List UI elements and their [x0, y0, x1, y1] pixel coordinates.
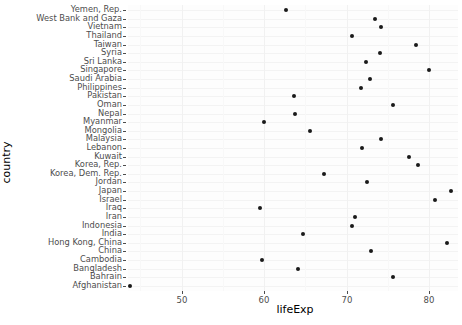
y-tick-mark — [123, 286, 126, 287]
data-point — [260, 258, 264, 262]
gridline-horizontal — [128, 234, 458, 235]
y-tick-mark — [123, 251, 126, 252]
y-tick-mark — [123, 19, 126, 20]
y-tick-mark — [123, 243, 126, 244]
scatter-plot: country Yemen, Rep.West Bank and GazaVie… — [0, 0, 462, 325]
gridline-horizontal — [128, 62, 458, 63]
gridline-horizontal — [128, 19, 458, 20]
data-point — [379, 137, 383, 141]
data-point — [365, 180, 369, 184]
gridline-horizontal — [128, 200, 458, 201]
y-tick-mark — [123, 234, 126, 235]
x-tick-mark — [347, 291, 348, 294]
data-point — [416, 163, 420, 167]
data-point — [350, 34, 354, 38]
gridline-horizontal — [128, 45, 458, 46]
data-point — [360, 146, 364, 150]
data-point — [445, 241, 449, 245]
data-point — [284, 8, 288, 12]
y-tick-mark — [123, 131, 126, 132]
data-point — [368, 77, 372, 81]
gridline-horizontal — [128, 148, 458, 149]
data-point — [373, 17, 377, 21]
y-tick-label: Afghanistan — [73, 281, 122, 290]
gridline-horizontal — [128, 27, 458, 28]
y-axis-title: country — [0, 0, 14, 325]
gridline-vertical — [347, 5, 348, 291]
data-point — [369, 249, 373, 253]
data-point — [262, 120, 266, 124]
y-tick-mark — [123, 148, 126, 149]
gridline-horizontal — [128, 165, 458, 166]
y-tick-label-list: Yemen, Rep.West Bank and GazaVietnamThai… — [14, 0, 122, 325]
gridline-horizontal — [128, 105, 458, 106]
gridline-horizontal — [128, 174, 458, 175]
gridline-vertical — [182, 5, 183, 291]
y-tick-mark — [123, 36, 126, 37]
data-point — [378, 51, 382, 55]
data-point — [296, 267, 300, 271]
gridline-horizontal — [128, 131, 458, 132]
gridline-horizontal — [128, 286, 458, 287]
gridline-horizontal — [128, 36, 458, 37]
data-point — [308, 129, 312, 133]
y-tick-mark — [123, 182, 126, 183]
data-point — [292, 94, 296, 98]
gridline-horizontal — [128, 269, 458, 270]
gridline-vertical-minor — [223, 5, 224, 291]
x-tick-mark — [264, 291, 265, 294]
y-axis: country Yemen, Rep.West Bank and GazaVie… — [0, 0, 128, 325]
data-point — [322, 172, 326, 176]
y-tick-mark — [123, 277, 126, 278]
x-tick-mark — [429, 291, 430, 294]
data-point — [128, 284, 132, 288]
data-point — [427, 68, 431, 72]
y-tick-mark — [123, 165, 126, 166]
gridline-vertical-minor — [388, 5, 389, 291]
data-point — [258, 206, 262, 210]
data-point — [433, 198, 437, 202]
plot-panel — [128, 5, 458, 291]
y-tick-mark — [123, 122, 126, 123]
y-tick-mark — [123, 200, 126, 201]
gridline-horizontal — [128, 182, 458, 183]
y-tick-mark — [123, 191, 126, 192]
y-tick-mark — [123, 260, 126, 261]
data-point — [379, 25, 383, 29]
gridline-vertical — [264, 5, 265, 291]
y-tick-mark — [123, 96, 126, 97]
gridline-horizontal — [128, 79, 458, 80]
gridline-horizontal — [128, 243, 458, 244]
y-tick-mark — [123, 174, 126, 175]
y-tick-mark — [123, 114, 126, 115]
data-point — [391, 103, 395, 107]
data-point — [391, 275, 395, 279]
data-point — [449, 189, 453, 193]
y-tick-mark — [123, 226, 126, 227]
y-tick-mark — [123, 157, 126, 158]
data-point — [350, 224, 354, 228]
y-tick-mark — [123, 208, 126, 209]
y-tick-mark — [123, 139, 126, 140]
gridline-vertical-minor — [305, 5, 306, 291]
y-tick-mark — [123, 105, 126, 106]
y-tick-mark — [123, 27, 126, 28]
data-point — [353, 215, 357, 219]
gridline-horizontal — [128, 53, 458, 54]
data-point — [364, 60, 368, 64]
gridline-horizontal — [128, 10, 458, 11]
x-axis-title: lifeExp — [128, 303, 462, 317]
y-tick-mark — [123, 79, 126, 80]
data-point — [407, 155, 411, 159]
y-tick-mark — [123, 53, 126, 54]
y-tick-mark — [123, 217, 126, 218]
data-point — [301, 232, 305, 236]
y-tick-mark — [123, 88, 126, 89]
gridline-horizontal — [128, 139, 458, 140]
y-tick-mark — [123, 70, 126, 71]
gridline-horizontal — [128, 251, 458, 252]
gridline-vertical — [429, 5, 430, 291]
gridline-horizontal — [128, 260, 458, 261]
gridline-horizontal — [128, 191, 458, 192]
gridline-horizontal — [128, 88, 458, 89]
